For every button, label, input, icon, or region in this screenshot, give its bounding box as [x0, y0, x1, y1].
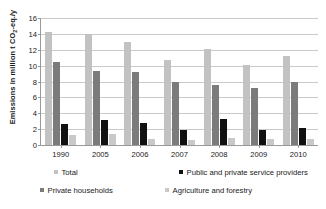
bar[interactable] — [212, 85, 219, 145]
bar-chart-figure: Emissions in million t CO2-eq./y 0246810… — [0, 0, 326, 209]
bar[interactable] — [85, 34, 92, 145]
bar[interactable] — [204, 49, 211, 145]
legend-label: Private households — [48, 186, 113, 195]
x-tick-mark — [100, 145, 101, 148]
legend-label: Agriculture and forestry — [173, 186, 252, 195]
bar-group: 2008 — [199, 18, 239, 145]
x-tick-label: 2010 — [290, 150, 307, 159]
x-tick-label: 1990 — [52, 150, 69, 159]
bar-group: 2006 — [120, 18, 160, 145]
bar[interactable] — [109, 134, 116, 145]
y-tick-label: 8 — [11, 77, 37, 86]
x-tick-mark — [180, 145, 181, 148]
x-tick-mark — [219, 145, 220, 148]
y-tick-label: 16 — [11, 14, 37, 23]
bar[interactable] — [259, 130, 266, 145]
bar[interactable] — [140, 123, 147, 145]
bar[interactable] — [124, 42, 131, 145]
y-tick-label: 2 — [11, 125, 37, 134]
bar-group: 2009 — [239, 18, 279, 145]
bar[interactable] — [45, 32, 52, 146]
bar[interactable] — [243, 65, 250, 145]
bar-group: 2005 — [81, 18, 121, 145]
bar-groups: 1990200520062007200820092010 — [41, 18, 318, 145]
x-tick-mark — [140, 145, 141, 148]
bar[interactable] — [220, 119, 227, 145]
legend-swatch-icon — [40, 188, 44, 192]
y-tick-label: 10 — [11, 61, 37, 70]
bar[interactable] — [251, 88, 258, 145]
bar[interactable] — [291, 82, 298, 146]
bar[interactable] — [132, 72, 139, 145]
x-tick-label: 2007 — [171, 150, 188, 159]
x-tick-label: 2005 — [92, 150, 109, 159]
bar[interactable] — [180, 130, 187, 145]
legend-row: TotalPublic and private service provider… — [40, 164, 318, 180]
legend-label: Public and private service providers — [187, 168, 308, 177]
bar[interactable] — [299, 128, 306, 145]
legend-item[interactable]: Agriculture and forestry — [165, 182, 252, 198]
bar[interactable] — [267, 139, 274, 145]
bar[interactable] — [93, 71, 100, 145]
bar-group: 1990 — [41, 18, 81, 145]
legend-swatch-icon — [179, 170, 183, 174]
bar[interactable] — [148, 139, 155, 145]
x-tick-label: 2008 — [211, 150, 228, 159]
bar[interactable] — [69, 135, 76, 145]
x-tick-label: 2009 — [250, 150, 267, 159]
bar[interactable] — [164, 60, 171, 145]
bar[interactable] — [53, 62, 60, 145]
bar[interactable] — [228, 138, 235, 145]
bar[interactable] — [61, 124, 68, 145]
y-tick-label: 4 — [11, 109, 37, 118]
y-tick-label: 6 — [11, 93, 37, 102]
bar[interactable] — [101, 120, 108, 145]
bar[interactable] — [172, 82, 179, 145]
bar-group: 2010 — [278, 18, 318, 145]
legend-item[interactable]: Public and private service providers — [179, 164, 308, 180]
y-tick-mark — [38, 145, 41, 146]
bar[interactable] — [188, 140, 195, 145]
x-tick-mark — [61, 145, 62, 148]
legend-item[interactable]: Total — [54, 164, 179, 180]
legend-swatch-icon — [165, 188, 169, 192]
legend-row: Private householdsAgriculture and forest… — [40, 182, 318, 198]
bar[interactable] — [307, 139, 314, 145]
y-tick-label: 0 — [11, 141, 37, 150]
x-tick-label: 2006 — [131, 150, 148, 159]
x-tick-mark — [259, 145, 260, 148]
y-tick-label: 14 — [11, 29, 37, 38]
legend-item[interactable]: Private households — [40, 182, 165, 198]
bar[interactable] — [283, 56, 290, 145]
x-tick-mark — [298, 145, 299, 148]
legend-swatch-icon — [54, 170, 58, 174]
chart-legend: TotalPublic and private service provider… — [40, 164, 318, 204]
legend-label: Total — [62, 168, 78, 177]
bar-group: 2007 — [160, 18, 200, 145]
plot-area: 0246810121416 19902005200620072008200920… — [40, 18, 318, 146]
y-tick-label: 12 — [11, 45, 37, 54]
